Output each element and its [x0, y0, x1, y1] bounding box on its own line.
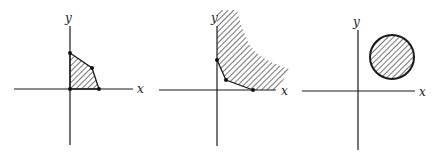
vertex-dot	[90, 66, 94, 70]
vertex-dot	[215, 58, 219, 62]
vertex-dot	[224, 78, 228, 82]
x-axis-label: x	[281, 84, 288, 98]
vertex-dot	[68, 51, 72, 55]
vertex-dot	[251, 88, 255, 92]
vertex-dot	[97, 87, 101, 91]
y-axis-label: y	[210, 11, 218, 25]
y-axis-label: y	[352, 15, 360, 29]
x-axis-label: x	[137, 82, 144, 96]
panel-disk: y x	[302, 15, 426, 150]
figure-canvas: y x y x y x	[0, 0, 432, 158]
panel-bounded-polygon: y x	[14, 11, 144, 145]
feasible-region	[370, 35, 414, 79]
feasible-region	[70, 53, 99, 89]
feasible-region	[210, 5, 300, 95]
x-axis-label: x	[419, 85, 426, 99]
y-axis-label: y	[64, 11, 72, 25]
panel-unbounded-region: y x	[159, 5, 300, 146]
vertex-dot	[68, 87, 72, 91]
